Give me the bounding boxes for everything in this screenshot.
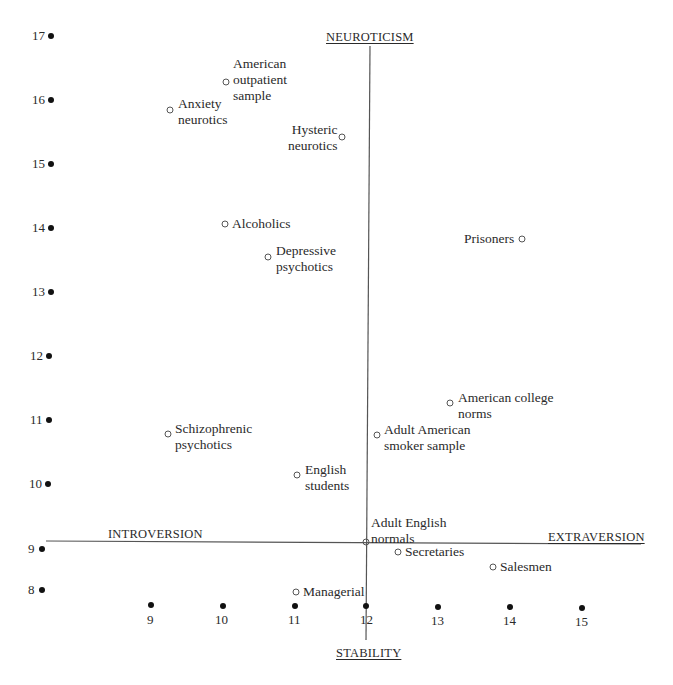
label-salesmen: Salesmen <box>500 559 552 575</box>
label-hysteric-neurotics: Hysteric neurotics <box>288 122 338 154</box>
label-managerial: Managerial <box>303 584 364 600</box>
point-american-college <box>447 400 453 406</box>
point-anxiety-neurotics <box>167 107 173 113</box>
y-tick-label: 15 <box>32 156 45 172</box>
x-tick-label: 15 <box>575 614 588 630</box>
label-anxiety-neurotics: Anxiety neurotics <box>178 96 228 128</box>
y-tick-label: 8 <box>28 582 35 598</box>
label-schizophrenic: Schizophrenic psychotics <box>175 421 252 453</box>
point-secretaries <box>395 549 401 555</box>
label-depressive-psychotics: Depressive psychotics <box>276 243 336 275</box>
y-tick-label: 12 <box>30 348 43 364</box>
point-depressive-psychotics <box>265 254 271 260</box>
point-adult-american-smoker <box>374 432 380 438</box>
axis-title-extraversion: EXTRAVERSION <box>548 530 645 545</box>
y-tick-label: 13 <box>32 284 45 300</box>
y-tick-label: 9 <box>28 541 35 557</box>
axis-title-introversion: INTROVERSION <box>108 527 203 542</box>
point-salesmen <box>490 564 496 570</box>
data-points <box>165 79 525 595</box>
point-american-outpatient <box>223 79 229 85</box>
vertical-axis-line <box>366 46 370 640</box>
y-tick-dots <box>39 33 54 593</box>
y-tick-label: 11 <box>30 412 43 428</box>
point-alcoholics <box>222 221 228 227</box>
label-english-students: English students <box>305 462 349 494</box>
label-american-college: American college norms <box>458 390 554 422</box>
y-tick-label: 17 <box>32 28 45 44</box>
y-tick-label: 10 <box>29 476 42 492</box>
axes-svg <box>0 0 673 685</box>
point-english-students <box>294 472 300 478</box>
label-american-outpatient: American outpatient sample <box>233 56 287 104</box>
label-prisoners: Prisoners <box>464 231 514 247</box>
point-managerial <box>293 589 299 595</box>
axis-title-stability: STABILITY <box>336 646 401 661</box>
eysenck-personality-scatter-chart: NEUROTICISM STABILITY INTROVERSION EXTRA… <box>0 0 673 685</box>
label-alcoholics: Alcoholics <box>232 216 291 232</box>
x-tick-label: 10 <box>215 612 228 628</box>
point-adult-english-normals <box>363 539 369 545</box>
axis-title-neuroticism: NEUROTICISM <box>326 30 414 45</box>
y-tick-label: 14 <box>32 220 45 236</box>
point-hysteric-neurotics <box>339 134 345 140</box>
point-schizophrenic <box>165 431 171 437</box>
x-tick-label: 14 <box>503 613 516 629</box>
x-tick-label: 11 <box>288 612 301 628</box>
x-tick-label: 12 <box>360 612 373 628</box>
x-tick-label: 9 <box>147 612 154 628</box>
label-adult-american-smoker: Adult American smoker sample <box>384 422 471 454</box>
label-secretaries: Secretaries <box>405 544 464 560</box>
y-tick-label: 16 <box>32 92 45 108</box>
x-tick-label: 13 <box>431 613 444 629</box>
point-prisoners <box>519 236 525 242</box>
label-adult-english-normals: Adult English normals <box>371 515 446 547</box>
